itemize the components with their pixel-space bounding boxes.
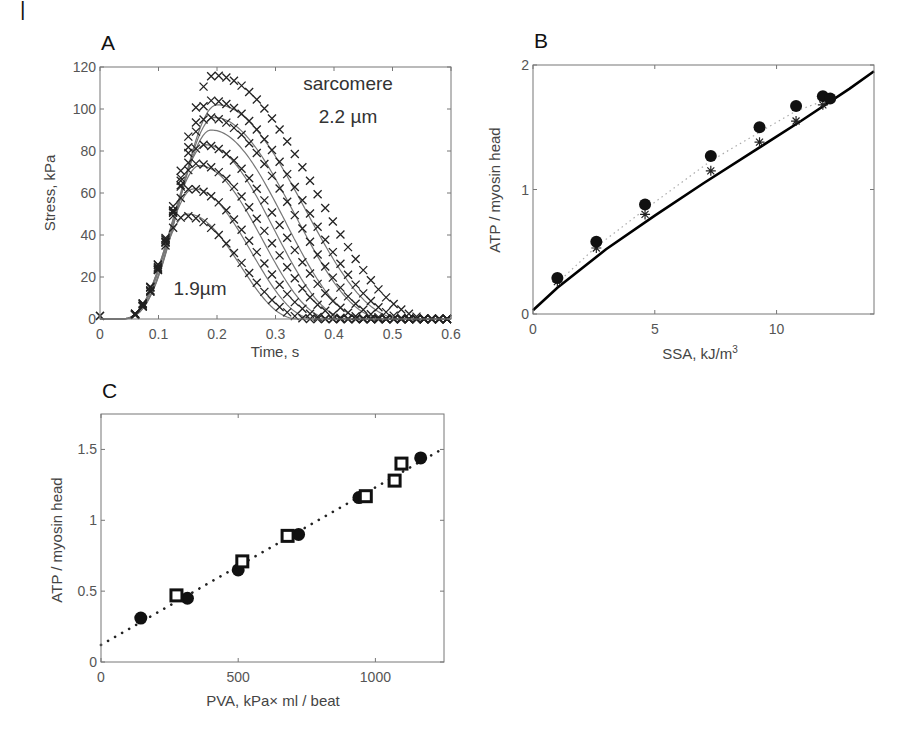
x-tick-label: 0.3 (266, 326, 286, 342)
x-marker (207, 72, 215, 80)
x-marker (405, 310, 413, 318)
panel-a-ylabel: Stress, kPa (41, 154, 58, 231)
x-marker (291, 150, 299, 158)
panel-a-plot-area (96, 72, 451, 323)
x-marker (359, 289, 367, 297)
x-marker (276, 251, 284, 259)
panel-b: B 0510012 SSA, kJ/m3 ATP / myosin head (486, 29, 874, 362)
circle-marker (590, 236, 602, 248)
x-marker (253, 185, 261, 193)
y-tick-label: 1 (89, 512, 97, 528)
x-marker (283, 137, 291, 145)
x-tick-label: 0.2 (207, 326, 227, 342)
x-marker (298, 284, 306, 292)
y-tick-label: 0 (89, 654, 97, 670)
star-marker (706, 166, 716, 176)
x-marker (268, 239, 276, 247)
x-marker (374, 303, 382, 311)
x-marker (352, 255, 360, 263)
square-marker (360, 491, 371, 502)
x-tick-label: 0.1 (149, 326, 169, 342)
x-marker (215, 198, 223, 206)
x-tick-label: 500 (227, 669, 251, 685)
circle-marker (414, 451, 427, 464)
x-marker (177, 214, 185, 222)
square-marker (171, 590, 182, 601)
x-marker (298, 305, 306, 313)
x-marker (359, 266, 367, 274)
panel-b-xlabel: SSA, kJ/m3 (662, 344, 738, 362)
x-marker (260, 196, 268, 204)
panel-a-xlabel: Time, s (251, 343, 300, 360)
panel-c-axes-box (101, 414, 444, 662)
x-marker (268, 115, 276, 123)
x-marker (222, 150, 230, 158)
x-marker (306, 238, 314, 246)
x-marker (260, 104, 268, 112)
x-marker (253, 215, 261, 223)
x-marker (192, 118, 200, 126)
panel-a: A 00.10.20.30.40.50.6020406080100120 Tim… (41, 31, 461, 360)
x-marker (238, 131, 246, 139)
x-marker (245, 269, 253, 277)
x-marker (253, 96, 261, 104)
x-marker (283, 234, 291, 242)
x-marker (321, 204, 329, 212)
y-tick-label: 0.5 (78, 583, 98, 599)
x-marker (314, 190, 322, 198)
circle-marker (551, 272, 563, 284)
x-marker (200, 160, 208, 168)
annotation-2-2-um: 2.2 µm (319, 106, 377, 127)
x-marker (268, 209, 276, 217)
x-marker (192, 104, 200, 112)
x-marker (291, 211, 299, 219)
circle-marker (754, 121, 766, 133)
panel-c-ylabel: ATP / myosin head (48, 477, 65, 602)
square-marker (389, 475, 400, 486)
x-marker (200, 116, 208, 124)
star-marker (755, 137, 765, 147)
x-marker (238, 110, 246, 118)
panel-c: C 0500100000.511.5 PVA, kPa× ml / beat A… (48, 379, 444, 709)
x-marker (207, 97, 215, 105)
x-marker (298, 163, 306, 171)
panel-b-plot-area (533, 71, 874, 310)
x-marker (344, 309, 352, 317)
x-marker (306, 269, 314, 277)
x-marker (230, 157, 238, 165)
x-marker (276, 281, 284, 289)
x-marker (131, 311, 139, 319)
panel-c-ticks: 0500100000.511.5 (78, 414, 444, 685)
x-marker (207, 192, 215, 200)
y-tick-label: 100 (73, 101, 97, 117)
x-marker (329, 297, 337, 305)
x-tick-label: 0.6 (441, 326, 461, 342)
x-marker (200, 188, 208, 196)
square-marker (282, 530, 293, 541)
x-marker (177, 167, 185, 175)
square-marker (396, 458, 407, 469)
panel-b-letter: B (534, 29, 548, 52)
x-marker (336, 304, 344, 312)
circle-marker (705, 150, 717, 162)
y-tick-label: 120 (73, 59, 97, 75)
y-tick-label: 1.5 (78, 441, 98, 457)
x-marker (200, 83, 208, 91)
x-tick-label: 0 (96, 326, 104, 342)
star-marker (791, 116, 801, 126)
x-marker (382, 293, 390, 301)
x-marker (344, 271, 352, 279)
x-marker (253, 125, 261, 133)
x-marker (291, 274, 299, 282)
y-tick-label: 20 (80, 269, 96, 285)
annotation-1-9-um: 1.9µm (173, 278, 226, 299)
x-marker (215, 231, 223, 239)
x-marker (329, 217, 337, 225)
panel-b-ylabel: ATP / myosin head (486, 127, 503, 252)
x-marker (184, 133, 192, 141)
annotation-sarcomere: sarcomere (303, 73, 393, 94)
square-marker (237, 556, 248, 567)
x-marker (367, 276, 375, 284)
x-marker (329, 248, 337, 256)
y-tick-label: 60 (80, 185, 96, 201)
